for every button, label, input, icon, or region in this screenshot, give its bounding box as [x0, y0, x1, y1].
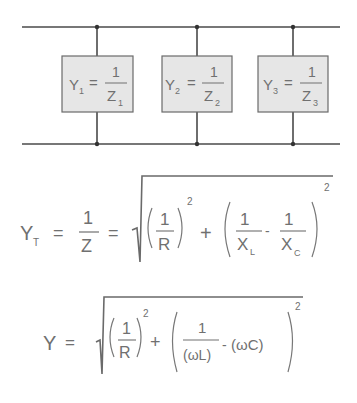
minus-sign: -: [222, 337, 227, 353]
equals-sign: =: [65, 333, 75, 352]
term2a-denominator: (ωL): [183, 347, 211, 363]
junction-dot: [195, 142, 199, 146]
equals-sign: =: [284, 74, 293, 91]
admittance-symbol: Y: [69, 76, 79, 93]
lhs-symbol: Y: [20, 222, 33, 244]
term2a-numerator: 1: [240, 210, 249, 229]
term2a-numerator: 1: [198, 319, 206, 336]
term1-denominator: R: [119, 344, 131, 361]
lhs-symbol: Y: [43, 332, 56, 354]
equals-sign: =: [187, 74, 196, 91]
junction-dot: [95, 25, 99, 29]
impedance-subscript: 1: [118, 98, 123, 108]
junction-dot: [291, 142, 295, 146]
term2a-denominator: X: [237, 235, 248, 254]
impedance-symbol: Z: [204, 87, 213, 104]
fraction-denominator: Z: [81, 236, 92, 256]
numerator: 1: [210, 64, 218, 80]
equals-sign: =: [108, 223, 119, 243]
junction-dot: [291, 25, 295, 29]
term2-exponent: 2: [295, 301, 301, 312]
term1-numerator: 1: [122, 320, 131, 337]
term2b-subscript: C: [294, 248, 301, 258]
impedance-symbol: Z: [302, 87, 311, 104]
formula-total-admittance: Y T = 1 Z = 1 R 2 + 1 X L - 1 X C 2: [20, 176, 333, 262]
impedance-subscript: 2: [215, 98, 220, 108]
equals-sign: =: [53, 223, 64, 243]
branch-2: Y 2 = 1 Z 2: [162, 25, 232, 146]
parallel-admittance-diagram: Y 1 = 1 Z 1 Y 2 = 1 Z 2 Y 3 = 1 Z 3: [0, 0, 357, 403]
term2b-expression: (ωC): [231, 336, 264, 353]
impedance-symbol: Z: [107, 87, 116, 104]
admittance-symbol: Y: [165, 76, 175, 93]
term1-exponent: 2: [187, 196, 193, 207]
admittance-symbol: Y: [263, 76, 273, 93]
admittance-subscript: 1: [79, 86, 84, 96]
branch-3: Y 3 = 1 Z 3: [258, 25, 328, 146]
term2b-denominator: X: [281, 235, 292, 254]
term2b-numerator: 1: [284, 210, 293, 229]
fraction-numerator: 1: [83, 208, 93, 228]
equals-sign: =: [89, 74, 98, 91]
term2a-subscript: L: [250, 247, 255, 257]
term1-exponent: 2: [143, 308, 149, 319]
term1-numerator: 1: [160, 210, 169, 229]
minus-sign: -: [265, 223, 270, 239]
junction-dot: [195, 25, 199, 29]
branch-1: Y 1 = 1 Z 1: [62, 25, 133, 146]
junction-dot: [95, 142, 99, 146]
admittance-subscript: 3: [273, 86, 278, 96]
numerator: 1: [308, 64, 316, 80]
impedance-subscript: 3: [313, 98, 318, 108]
term2-exponent: 2: [324, 182, 330, 193]
plus-sign: +: [200, 222, 212, 244]
term1-denominator: R: [158, 235, 170, 254]
plus-sign: +: [150, 332, 161, 352]
admittance-subscript: 2: [175, 86, 180, 96]
numerator: 1: [112, 64, 120, 80]
lhs-subscript: T: [33, 237, 39, 248]
formula-omega-admittance: Y = 1 R 2 + 1 (ωL) - (ωC) 2: [43, 297, 303, 374]
